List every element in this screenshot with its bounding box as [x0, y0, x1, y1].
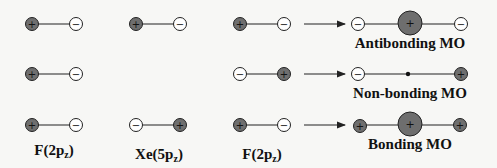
svg-text:+: + [176, 120, 184, 131]
positive-lobe-icon: + [455, 68, 468, 81]
negative-lobe-icon: − [352, 18, 365, 31]
svg-text:−: − [236, 69, 244, 80]
svg-text:−: − [354, 19, 362, 30]
svg-text:+: + [456, 120, 464, 131]
svg-text:+: + [280, 69, 288, 80]
row-antibonding: + − + − + − − + − Antibonding MO [26, 11, 468, 51]
svg-text:−: − [132, 120, 140, 131]
svg-text:+: + [356, 121, 364, 132]
negative-lobe-icon: − [278, 119, 291, 132]
svg-text:−: − [280, 19, 288, 30]
f-right-orbital: + − [234, 119, 291, 132]
large-positive-lobe-icon: + [398, 112, 422, 136]
svg-text:−: − [280, 120, 288, 131]
negative-lobe-icon: − [174, 18, 187, 31]
antibonding-mo-label: Antibonding MO [355, 35, 465, 51]
positive-lobe-icon: + [26, 119, 39, 132]
f-right-orbital: − + [234, 68, 291, 81]
svg-text:−: − [72, 19, 80, 30]
svg-text:+: + [28, 19, 36, 30]
xe-orbital: + − [130, 18, 187, 31]
svg-text:−: − [457, 19, 465, 30]
svg-text:+: + [236, 19, 244, 30]
positive-lobe-icon: + [278, 68, 291, 81]
large-positive-lobe-icon: + [398, 11, 422, 35]
positive-lobe-icon: + [130, 18, 143, 31]
negative-lobe-icon: − [70, 68, 83, 81]
negative-lobe-icon: − [70, 18, 83, 31]
svg-text:−: − [72, 120, 80, 131]
f-left-orbital: + − [26, 68, 83, 81]
bonding-mo: + + + [354, 112, 467, 136]
row-nonbonding: + − − + − + Non-bonding MO [26, 68, 468, 102]
xe-orbital: − + [130, 119, 187, 132]
positive-lobe-icon: + [26, 18, 39, 31]
f-left-atom-label: F(2pz) [34, 142, 73, 160]
svg-text:+: + [405, 118, 414, 131]
antibonding-mo: − + − [352, 11, 468, 35]
nonbonding-mo-label: Non-bonding MO [353, 85, 467, 101]
positive-lobe-icon: + [354, 120, 367, 133]
positive-lobe-icon: + [234, 119, 247, 132]
positive-lobe-icon: + [174, 119, 187, 132]
mo-diagram: + − + − + − − + − Antibonding MO + − [0, 0, 497, 168]
xe-atom-label: Xe(5pz) [135, 146, 183, 164]
f-right-atom-label: F(2pz) [242, 146, 281, 164]
svg-text:+: + [28, 120, 36, 131]
svg-text:+: + [236, 120, 244, 131]
f-left-orbital: + − [26, 18, 83, 31]
negative-lobe-icon: − [234, 68, 247, 81]
svg-text:−: − [354, 69, 362, 80]
svg-text:+: + [28, 69, 36, 80]
negative-lobe-icon: − [130, 119, 143, 132]
svg-text:+: + [132, 19, 140, 30]
f-right-orbital: + − [234, 18, 291, 31]
negative-lobe-icon: − [278, 18, 291, 31]
svg-text:+: + [405, 17, 414, 30]
f-left-orbital: + − [26, 119, 83, 132]
svg-text:−: − [176, 19, 184, 30]
negative-lobe-icon: − [455, 18, 468, 31]
negative-lobe-icon: − [352, 68, 365, 81]
bonding-mo-label: Bonding MO [368, 136, 452, 152]
nonbonding-mo: − + [352, 68, 468, 81]
negative-lobe-icon: − [70, 119, 83, 132]
svg-text:+: + [457, 69, 465, 80]
svg-text:−: − [72, 69, 80, 80]
positive-lobe-icon: + [26, 68, 39, 81]
node-dot-icon [406, 72, 410, 76]
positive-lobe-icon: + [234, 18, 247, 31]
positive-lobe-icon: + [454, 119, 467, 132]
